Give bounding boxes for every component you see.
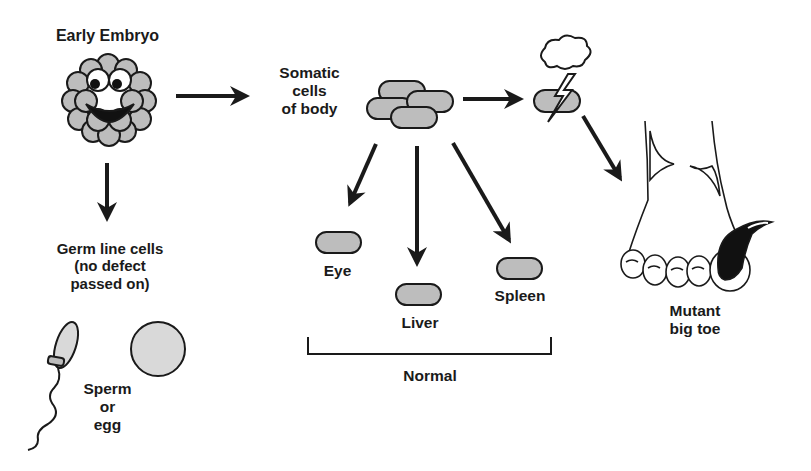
eye-cell-icon bbox=[316, 232, 361, 253]
egg-icon bbox=[131, 322, 185, 376]
somatic-label: Somatic cells of body bbox=[262, 64, 357, 117]
mutant-label: Mutant big toe bbox=[640, 302, 750, 338]
germline-label: Germ line cells (no defect passed on) bbox=[40, 240, 180, 292]
arrow-to-spleen bbox=[453, 143, 509, 240]
embryo-label: Early Embryo bbox=[45, 27, 170, 45]
arrow-to-eye bbox=[350, 144, 376, 203]
normal-label: Normal bbox=[390, 367, 470, 385]
cell-cluster-icon bbox=[367, 81, 453, 128]
mutated-cell-icon bbox=[534, 35, 591, 122]
spleen-cell-icon bbox=[497, 258, 542, 279]
normal-bracket bbox=[308, 337, 551, 354]
storm-cloud-icon bbox=[541, 35, 591, 69]
spleen-label: Spleen bbox=[480, 287, 560, 305]
embryo-face-icon bbox=[62, 54, 156, 146]
eye-label: Eye bbox=[315, 262, 360, 280]
arrow-mutated-to-foot bbox=[583, 116, 620, 178]
liver-label: Liver bbox=[390, 314, 450, 332]
gametes-label: Sperm or egg bbox=[70, 380, 145, 433]
liver-cell-icon bbox=[396, 284, 441, 305]
diagram-canvas: Early Embryo Somatic cells of body Germ … bbox=[0, 0, 811, 471]
foot-icon bbox=[621, 121, 772, 291]
